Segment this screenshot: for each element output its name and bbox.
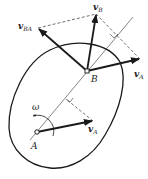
point-b — [85, 69, 89, 73]
vector-vba — [39, 29, 87, 71]
label-vba: vBA — [18, 21, 33, 32]
point-a — [35, 130, 39, 134]
right-angle-mark-a — [66, 98, 73, 102]
label-b: B — [90, 74, 98, 84]
dashed-vb-to-va — [96, 14, 140, 59]
dashed-vba-to-vb — [38, 14, 96, 28]
rigid-body-velocity-diagram: A B ω vB vBA vA vA — [0, 0, 148, 179]
rigid-body-outline — [9, 43, 123, 168]
label-vb: vB — [93, 2, 103, 13]
label-omega: ω — [32, 102, 40, 112]
vector-va-at-a — [37, 121, 92, 132]
label-va-at-b: vA — [134, 69, 144, 80]
vector-va-at-b — [87, 59, 139, 71]
label-a: A — [30, 141, 38, 151]
label-va-at-a: vA — [88, 124, 98, 135]
